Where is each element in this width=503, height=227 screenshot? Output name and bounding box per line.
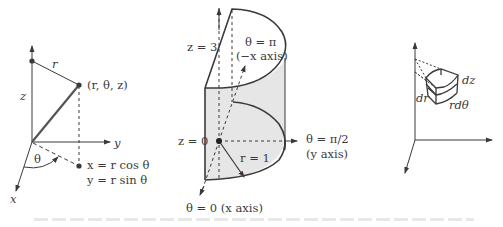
label-point: (r, θ, z) [87, 80, 128, 92]
label-theta-pi: θ = π [245, 37, 276, 49]
label-theta-pi-over-2: θ = π/2 [306, 134, 349, 146]
label-y-equation: y = r sin θ [87, 175, 147, 187]
label-theta-zero: θ = 0 (x axis) [186, 203, 263, 215]
label-z-equals-0: z = 0 [178, 136, 208, 148]
label-x-equation: x = r cos θ [87, 160, 149, 172]
x-axis-arrow [16, 142, 32, 191]
label-dz: dz [462, 75, 475, 87]
label-z: z [20, 91, 26, 103]
label-r-segment: r [52, 59, 58, 71]
label-rdtheta: rdθ [449, 100, 469, 112]
label-y-axis-mid: (y axis) [306, 149, 348, 161]
label-dr: dr [416, 93, 429, 105]
label-z-equals-3: z = 3 [187, 42, 217, 54]
label-theta: θ [34, 154, 41, 166]
cylindrical-coordinates-figure: r z (r, θ, z) y x θ x = r cos θ y = r si… [0, 0, 503, 227]
label-y-axis: y [114, 138, 121, 150]
label-r-equals-1: r = 1 [240, 153, 270, 165]
label-x-axis: x [10, 194, 17, 206]
cropped-caption-line [34, 218, 474, 221]
label-neg-x-axis: (−x axis) [236, 51, 288, 63]
